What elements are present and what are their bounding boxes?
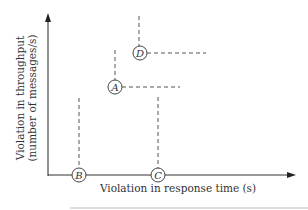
y-axis-arrow-icon: [45, 13, 51, 22]
point-a: A: [108, 80, 122, 94]
point-d: D: [133, 46, 147, 60]
y-axis-label-line1: Violation in throughput: [14, 35, 26, 161]
x-axis-label: Violation in response time (s): [99, 182, 256, 194]
point-c-label: C: [154, 170, 162, 181]
point-b: B: [72, 168, 86, 182]
point-a-label: A: [110, 82, 118, 93]
violation-diagram: D A B C Violation in response time (s) V…: [0, 0, 308, 210]
point-b-label: B: [74, 170, 82, 181]
point-c: C: [151, 168, 165, 182]
point-d-label: D: [135, 48, 144, 59]
x-axis-arrow-icon: [287, 172, 296, 178]
y-axis-label-line2: (number of messages/s): [26, 35, 38, 162]
